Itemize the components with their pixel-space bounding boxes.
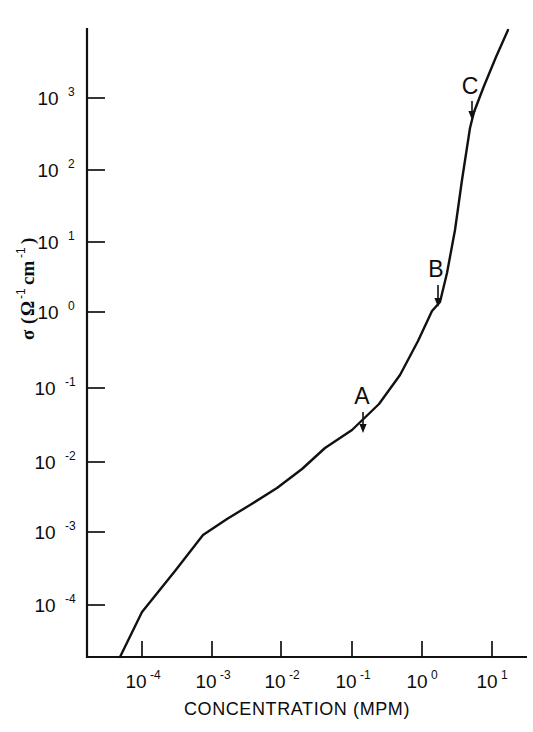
annotation-C-label: C [462, 73, 479, 99]
y-tick-exponent: 0 [68, 299, 75, 313]
data-series-conductivity [120, 30, 508, 657]
y-axis-title-open-paren: ( [17, 318, 39, 324]
y-tick-label: 10 [34, 595, 55, 616]
y-tick-label: 10 [37, 160, 58, 181]
annotation-C-arrow-head [468, 111, 475, 120]
y-axis-ticks [87, 98, 105, 605]
y-tick-exponent: -3 [65, 519, 76, 533]
x-tick-labels: 10 -4 10 -3 10 -2 10 -1 10 0 10 1 [125, 668, 508, 692]
y-axis-title-close-paren: ) [17, 238, 39, 244]
y-tick-label: 10 [37, 88, 58, 109]
conductivity-vs-concentration-chart: 10 3 10 2 10 1 10 0 10 -1 10 -2 10 -3 10… [0, 0, 533, 732]
y-tick-label: 10 [34, 452, 55, 473]
annotation-A-label: A [354, 383, 370, 409]
figure-container: 10 3 10 2 10 1 10 0 10 -1 10 -2 10 -3 10… [0, 0, 533, 732]
x-axis-title: CONCENTRATION (MPM) [184, 699, 410, 719]
y-tick-exponent: 3 [68, 85, 75, 99]
y-axis-title-omega-exponent: -1 [14, 288, 28, 299]
y-axis-title-cm: cm [17, 261, 38, 285]
annotation-C: C [462, 73, 479, 120]
annotation-A-arrow-head [359, 424, 366, 433]
y-tick-exponent: -2 [65, 449, 76, 463]
y-tick-exponent: -4 [65, 592, 76, 606]
x-tick-exponent: 1 [501, 668, 508, 682]
x-tick-label: 10 [335, 671, 356, 692]
x-tick-exponent: -3 [220, 668, 231, 682]
x-tick-label: 10 [476, 671, 497, 692]
x-tick-label: 10 [406, 671, 427, 692]
y-tick-label: 10 [37, 302, 58, 323]
y-axis-title-cm-exponent: -1 [14, 247, 28, 258]
x-tick-exponent: -2 [289, 668, 300, 682]
y-tick-labels: 10 3 10 2 10 1 10 0 10 -1 10 -2 10 -3 10… [34, 85, 76, 616]
x-tick-exponent: 0 [431, 668, 438, 682]
x-tick-label: 10 [264, 671, 285, 692]
y-tick-exponent: 2 [68, 157, 75, 171]
y-axis-title-sigma: σ [17, 329, 38, 340]
y-tick-exponent: 1 [68, 229, 75, 243]
x-tick-label: 10 [125, 671, 146, 692]
y-tick-label: 10 [34, 522, 55, 543]
y-tick-exponent: -1 [65, 375, 76, 389]
y-axis-title: σ ( Ω -1 cm -1 ) [14, 238, 39, 340]
annotation-B-label: B [428, 256, 443, 282]
x-tick-exponent: -1 [360, 668, 371, 682]
y-tick-label: 10 [34, 378, 55, 399]
x-tick-exponent: -4 [150, 668, 161, 682]
y-tick-label: 10 [37, 232, 58, 253]
x-tick-label: 10 [195, 671, 216, 692]
y-axis-title-omega: Ω [17, 301, 38, 316]
x-axis-ticks [142, 641, 492, 657]
